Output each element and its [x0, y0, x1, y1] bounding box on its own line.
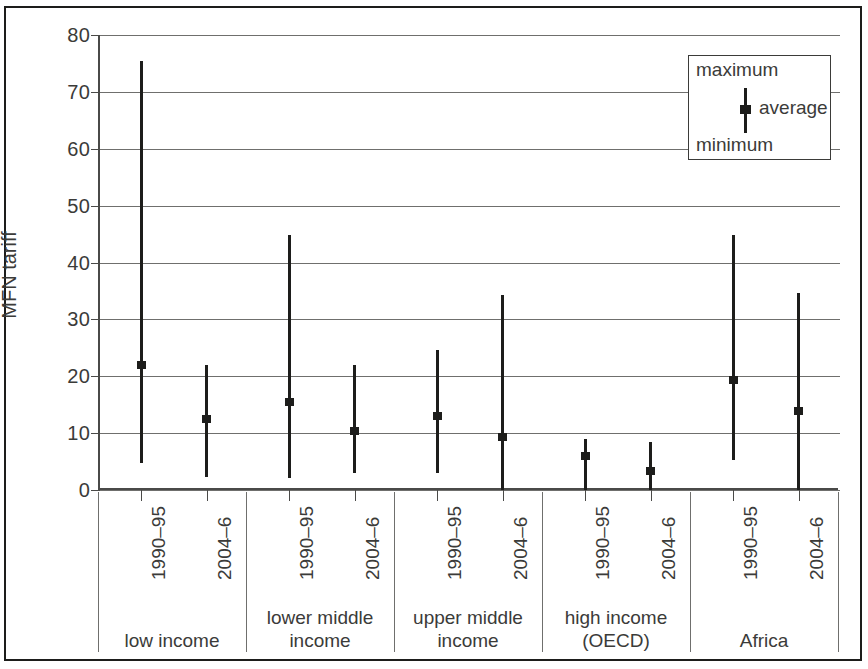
x-axis-group-label: high income(OECD)	[542, 606, 690, 652]
range-line	[140, 61, 143, 463]
chart-legend: maximum average minimum	[688, 55, 831, 160]
y-axis-tick-labels: 01020304050607080	[50, 35, 90, 490]
gridline	[100, 206, 840, 207]
y-axis-tick-label: 40	[67, 251, 90, 274]
x-axis-period-label: 2004–6	[214, 450, 236, 580]
y-axis-tick-label: 30	[67, 308, 90, 331]
legend-average-marker-icon	[740, 105, 751, 114]
y-axis-tick	[91, 206, 100, 207]
y-axis-tick-label: 70	[67, 80, 90, 103]
group-label-line: low income	[98, 629, 246, 652]
x-axis-period-label: 1990–95	[296, 450, 318, 580]
group-label-line: income	[394, 629, 542, 652]
y-axis-tick	[91, 433, 100, 434]
legend-minimum-label: minimum	[696, 134, 773, 156]
y-axis-title: MFN tariff	[0, 175, 21, 375]
gridline	[100, 263, 840, 264]
group-label-line: income	[246, 629, 394, 652]
range-line	[732, 235, 735, 461]
y-axis-tick	[91, 319, 100, 320]
average-marker	[285, 398, 294, 406]
group-label-line: lower middle	[246, 606, 394, 629]
x-axis-period-label: 2004–6	[510, 450, 532, 580]
average-marker	[646, 467, 655, 475]
chart-figure: MFN tariff 01020304050607080 1990–952004…	[0, 0, 868, 669]
x-axis-band: 1990–952004–61990–952004–61990–952004–61…	[98, 492, 838, 658]
range-line	[797, 293, 800, 490]
y-axis-tick-label: 60	[67, 137, 90, 160]
average-marker	[729, 376, 738, 384]
y-axis-tick-label: 80	[67, 24, 90, 47]
range-line	[584, 439, 587, 490]
x-axis-period-label: 1990–95	[444, 450, 466, 580]
average-marker	[433, 412, 442, 420]
average-marker	[350, 427, 359, 435]
y-axis-tick-label: 50	[67, 194, 90, 217]
legend-maximum-label: maximum	[696, 59, 778, 81]
gridline	[100, 433, 840, 434]
y-axis-tick	[91, 35, 100, 36]
y-axis-tick-label: 10	[67, 422, 90, 445]
group-label-line: (OECD)	[542, 629, 690, 652]
x-axis-period-label: 2004–6	[658, 450, 680, 580]
range-line	[353, 365, 356, 473]
group-label-line: upper middle	[394, 606, 542, 629]
average-marker	[137, 361, 146, 369]
x-axis-group-label: low income	[98, 629, 246, 652]
group-label-line: Africa	[690, 629, 838, 652]
range-line	[501, 295, 504, 490]
x-axis-group-label: upper middleincome	[394, 606, 542, 652]
x-axis-period-label: 1990–95	[740, 450, 762, 580]
legend-average-label: average	[759, 97, 828, 119]
x-axis-group-label: lower middleincome	[246, 606, 394, 652]
x-axis-period-label: 1990–95	[148, 450, 170, 580]
x-axis-period-label: 1990–95	[592, 450, 614, 580]
average-marker	[202, 415, 211, 423]
y-axis-tick	[91, 149, 100, 150]
range-line	[288, 235, 291, 478]
x-axis-period-label: 2004–6	[806, 450, 828, 580]
gridline	[100, 490, 840, 491]
group-separator	[838, 492, 839, 652]
average-marker	[498, 433, 507, 441]
group-label-line: high income	[542, 606, 690, 629]
gridline	[100, 319, 840, 320]
x-axis-group-label: Africa	[690, 629, 838, 652]
y-axis-tick	[91, 92, 100, 93]
x-axis-period-label: 2004–6	[362, 450, 384, 580]
y-axis-tick-label: 20	[67, 365, 90, 388]
gridline	[100, 35, 840, 36]
y-axis-tick	[91, 376, 100, 377]
y-axis-tick	[91, 490, 100, 491]
average-marker	[581, 452, 590, 460]
y-axis-tick-label: 0	[79, 479, 90, 502]
average-marker	[794, 407, 803, 415]
y-axis-tick	[91, 263, 100, 264]
